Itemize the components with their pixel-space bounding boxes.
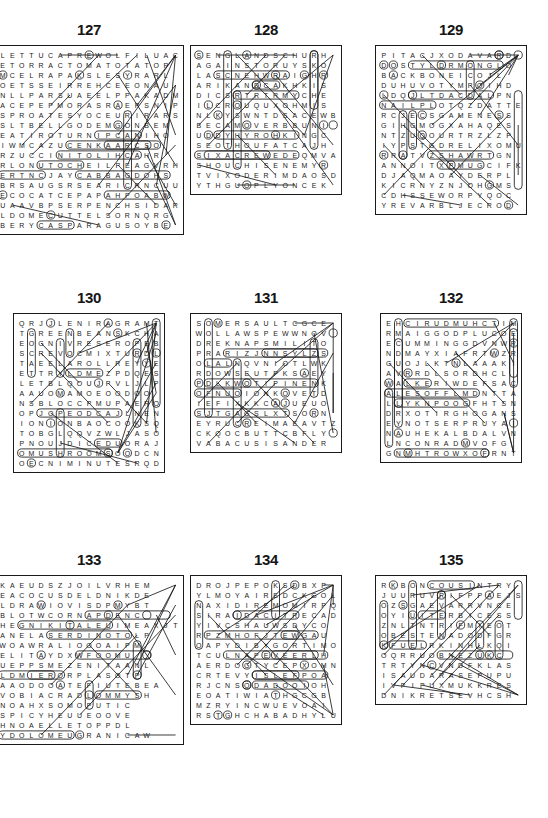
grid-cell: Q bbox=[65, 428, 75, 438]
grid-cell: T bbox=[427, 620, 437, 630]
grid-cell: X bbox=[213, 600, 223, 610]
grid-cell: P bbox=[123, 90, 133, 100]
grid-cell: L bbox=[84, 590, 94, 600]
puzzle-132[interactable]: 132 EHCIRUDMUHCTIMRMAIGGODPLUCOEECUMMING… bbox=[354, 290, 548, 552]
grid-cell: S bbox=[204, 710, 214, 720]
grid-cell: E bbox=[75, 140, 85, 150]
grid-cell: T bbox=[103, 60, 113, 70]
grid-cell: C bbox=[261, 610, 271, 620]
puzzle-130[interactable]: 130 QRJJLENIRAGRAMTTGREENBEANSKCHAEOGNIV… bbox=[0, 290, 178, 552]
grid-frame-133[interactable]: KAEUDSZJOILVRHEMEACOCUSDELDNIKDELDRAWIOV… bbox=[0, 575, 184, 745]
grid-cell: B bbox=[46, 378, 56, 388]
grid-cell: R bbox=[319, 70, 329, 80]
grid-cell: L bbox=[432, 368, 442, 378]
grid-cell: E bbox=[194, 418, 204, 428]
grid-cell: K bbox=[475, 680, 485, 690]
grid-frame-129[interactable]: PITACJXODAVARDDOSTYLDRMONGLOBACKBONEICOJ… bbox=[375, 45, 527, 215]
grid-cell: F bbox=[485, 630, 495, 640]
grid-cell: S bbox=[194, 610, 204, 620]
grid-cell: O bbox=[446, 190, 456, 200]
grid-cell: A bbox=[84, 610, 94, 620]
grid-frame-134[interactable]: DROJPEPOKSDBXPYLMOYAIREDCKGOLNAXIDIREMOM… bbox=[190, 575, 342, 725]
grid-cell: D bbox=[389, 190, 399, 200]
grid-cell: A bbox=[75, 220, 85, 230]
grid-cell: E bbox=[55, 710, 65, 720]
grid-cell: S bbox=[17, 348, 27, 358]
grid-cell: A bbox=[480, 428, 490, 438]
grid-cell: O bbox=[213, 160, 223, 170]
grid-cell: A bbox=[7, 680, 17, 690]
grid-cell: U bbox=[94, 700, 104, 710]
grid-cell: D bbox=[456, 50, 466, 60]
grid-cell: E bbox=[252, 170, 262, 180]
grid-cell: I bbox=[252, 690, 262, 700]
grid-cell: R bbox=[389, 150, 399, 160]
grid-frame-135[interactable]: RKBONCOUSINTRYJUURUVRIFPPAEJSOZSGAEVARRV… bbox=[375, 575, 527, 705]
grid-cell: N bbox=[499, 448, 509, 458]
puzzle-134[interactable]: 134 DROJPEPOKSDBXPYLMOYAIREDCKGOLNAXIDIR… bbox=[178, 552, 354, 818]
grid-cell: S bbox=[194, 150, 204, 160]
grid-cell: E bbox=[94, 90, 104, 100]
grid-cell: U bbox=[103, 620, 113, 630]
grid-cell: Q bbox=[328, 600, 338, 610]
grid-frame-131[interactable]: SOMERSAULTCGCEWOLLAWSPEWWNOVDREKNAPSMILI… bbox=[190, 313, 342, 453]
grid-cell: I bbox=[509, 418, 519, 428]
grid-cell: K bbox=[300, 590, 310, 600]
grid-cell: G bbox=[223, 710, 233, 720]
grid-cell: A bbox=[36, 140, 46, 150]
grid-cell: E bbox=[27, 378, 37, 388]
grid-cell: I bbox=[432, 338, 442, 348]
grid-cell: O bbox=[17, 730, 27, 740]
grid-cell: M bbox=[271, 418, 281, 428]
puzzle-128[interactable]: 128 SENGLANDSCHURHAGAINSTORUYSKOLASCNEHW… bbox=[178, 22, 354, 290]
grid-cell: A bbox=[17, 200, 27, 210]
grid-cell: R bbox=[422, 318, 432, 328]
puzzle-135[interactable]: 135 RKBONCOUSINTRYJUURUVRIFPPAEJSOZSGAEV… bbox=[354, 552, 548, 818]
grid-cell: U bbox=[465, 160, 475, 170]
grid-cell: I bbox=[213, 170, 223, 180]
grid-cell: K bbox=[132, 418, 142, 428]
grid-frame-132[interactable]: EHCIRUDMUHCTIMRMAIGGODPLUCOEECUMMINGGDVN… bbox=[380, 313, 522, 463]
grid-cell: E bbox=[65, 318, 75, 328]
grid-cell: H bbox=[290, 50, 300, 60]
letter-grid-133: KAEUDSZJOILVRHEMEACOCUSDELDNIKDELDRAWIOV… bbox=[0, 580, 180, 740]
grid-cell: Y bbox=[309, 710, 319, 720]
puzzle-127[interactable]: 127 LETTUCAPREWOLFILUACETORRACTOMATOTATO… bbox=[0, 22, 178, 290]
grid-cell: O bbox=[223, 590, 233, 600]
grid-cell: Y bbox=[408, 660, 418, 670]
grid-cell: N bbox=[398, 160, 408, 170]
grid-cell: S bbox=[513, 590, 523, 600]
grid-cell: N bbox=[27, 620, 37, 630]
grid-cell: Y bbox=[223, 700, 233, 710]
grid-frame-130[interactable]: QRJJLENIRAGRAMTTGREENBEANSKCHAEOGNIVRESE… bbox=[13, 313, 165, 473]
grid-cell: O bbox=[113, 448, 123, 458]
grid-cell: U bbox=[151, 50, 161, 60]
grid-cell: C bbox=[27, 150, 37, 160]
grid-cell: I bbox=[509, 358, 519, 368]
grid-cell: J bbox=[280, 398, 290, 408]
grid-frame-127[interactable]: LETTUCAPREWOLFILUACETORRACTOMATOTATOPMCE… bbox=[0, 45, 184, 235]
grid-cell: R bbox=[65, 180, 75, 190]
grid-cell: K bbox=[319, 180, 329, 190]
grid-cell: C bbox=[55, 190, 65, 200]
grid-cell: S bbox=[432, 418, 442, 428]
grid-cell bbox=[513, 150, 523, 160]
grid-cell: P bbox=[103, 600, 113, 610]
grid-cell: I bbox=[223, 600, 233, 610]
grid-cell: I bbox=[309, 80, 319, 90]
grid-cell: D bbox=[252, 680, 262, 690]
grid-cell bbox=[328, 318, 338, 328]
puzzle-131[interactable]: 131 SOMERSAULTCGCEWOLLAWSPEWWNOVDREKNAPS… bbox=[178, 290, 354, 552]
grid-cell: Y bbox=[142, 358, 152, 368]
grid-cell: A bbox=[213, 690, 223, 700]
grid-frame-128[interactable]: SENGLANDSCHURHAGAINSTORUYSKOLASCNEHWRAIG… bbox=[190, 45, 342, 195]
grid-cell: R bbox=[84, 730, 94, 740]
grid-cell: L bbox=[494, 60, 504, 70]
grid-cell: O bbox=[261, 130, 271, 140]
puzzle-133[interactable]: 133 KAEUDSZJOILVRHEMEACOCUSDELDNIKDELDRA… bbox=[0, 552, 178, 818]
grid-cell: T bbox=[485, 150, 495, 160]
puzzle-129[interactable]: 129 PITACJXODAVARDDOSTYLDRMONGLOBACKBONE… bbox=[354, 22, 548, 290]
grid-cell: R bbox=[75, 338, 85, 348]
grid-cell: L bbox=[309, 428, 319, 438]
grid-cell bbox=[171, 60, 181, 70]
